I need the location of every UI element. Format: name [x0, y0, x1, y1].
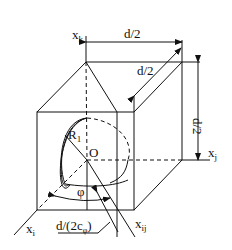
- angle-label: φ: [77, 184, 85, 199]
- radius-label: R1: [68, 127, 81, 144]
- phi-dimension-line: [97, 192, 118, 232]
- axis-k-label: xk: [72, 27, 84, 44]
- cube-sphere-diagram: xk d/2 d/2 d/2 xj R1 O φ d/(2cφ) xi xij: [0, 0, 232, 250]
- sphere-right-solid-arc: [110, 160, 128, 183]
- sphere-base-arc: [65, 180, 128, 186]
- dim-diag-label: d/2: [137, 63, 154, 78]
- apex-right-line: [86, 62, 117, 112]
- dim-right-label: d/2: [190, 118, 205, 135]
- dim-bottom-label: d/(2cφ): [56, 218, 92, 235]
- axis-ij-label: xij: [135, 216, 147, 233]
- cube-bottom-right-edge: [134, 160, 182, 210]
- axis-k-hidden: [86, 62, 87, 160]
- axis-i-label: xi: [26, 221, 36, 238]
- origin-label: O: [89, 145, 98, 160]
- axis-ij-line: [87, 160, 135, 237]
- apex-left-line: [37, 62, 86, 112]
- axis-j-label: xj: [208, 145, 217, 162]
- dim-top-label: d/2: [124, 26, 141, 41]
